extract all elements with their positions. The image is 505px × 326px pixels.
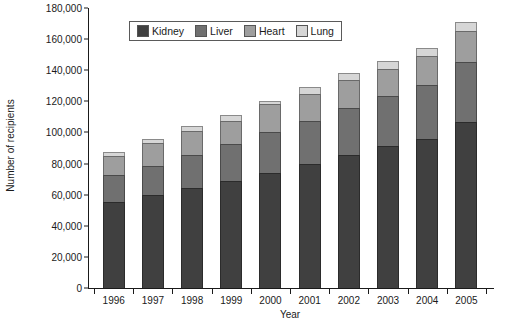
legend-item-kidney[interactable]: Kidney [137,25,184,37]
chart-legend: KidneyLiverHeartLung [129,21,342,41]
x-tick-mark [290,289,291,294]
legend-swatch-lung [296,25,308,37]
y-tick-label: 80,000 [51,158,88,169]
bar-segment-liver[interactable] [103,175,125,202]
legend-swatch-kidney [137,25,149,37]
y-tick-label: 180,000 [46,3,88,14]
x-axis-title: Year [88,309,492,320]
x-tick-mark [408,289,409,294]
y-tick-label: 100,000 [46,127,88,138]
legend-label: Liver [210,25,233,37]
bar-column[interactable] [455,8,477,288]
bar-segment-heart[interactable] [142,143,164,166]
bar-column[interactable] [299,8,321,288]
bar-segment-heart[interactable] [455,31,477,61]
x-tick-label: 1998 [181,295,203,306]
bar-segment-kidney[interactable] [455,122,477,288]
stacked-bar-chart: Number of recipients 020,00040,00060,000… [0,0,505,326]
bar-segment-kidney[interactable] [181,188,203,288]
bar-segment-lung[interactable] [416,48,438,57]
x-tick-label: 2004 [416,295,438,306]
bar-segment-lung[interactable] [455,22,477,31]
x-tick-mark [212,289,213,294]
bar-segment-kidney[interactable] [416,139,438,288]
bar-column[interactable] [338,8,360,288]
y-axis-title-text: Number of recipients [5,99,16,191]
bar-segment-liver[interactable] [377,96,399,147]
x-tick-label: 2002 [338,295,360,306]
legend-label: Heart [259,25,285,37]
bar-segment-kidney[interactable] [142,195,164,288]
bar-column[interactable] [181,8,203,288]
y-tick-label: 160,000 [46,34,88,45]
bar-column[interactable] [220,8,242,288]
x-tick-mark [447,289,448,294]
bar-segment-heart[interactable] [220,121,242,144]
y-tick-label: 40,000 [51,220,88,231]
legend-item-lung[interactable]: Lung [296,25,334,37]
x-tick-mark [486,289,487,294]
x-tick-label: 2000 [259,295,281,306]
bar-segment-kidney[interactable] [338,155,360,288]
legend-item-heart[interactable]: Heart [244,25,285,37]
x-tick-label: 1996 [103,295,125,306]
bar-segment-heart[interactable] [181,131,203,155]
y-axis-title: Number of recipients [2,0,18,290]
bar-segment-kidney[interactable] [377,146,399,288]
legend-swatch-heart [244,25,256,37]
bar-segment-heart[interactable] [377,69,399,95]
x-tick-mark [368,289,369,294]
x-tick-label: 2005 [455,295,477,306]
legend-label: Kidney [152,25,184,37]
bar-segment-heart[interactable] [416,56,438,85]
bar-segment-kidney[interactable] [220,181,242,288]
x-axis-labels: 1996199719981999200020012002200320042005 [88,295,492,306]
x-tick-mark [329,289,330,294]
x-tick-label: 1999 [220,295,242,306]
bar-segment-heart[interactable] [338,80,360,108]
bar-group [88,8,492,288]
plot-area [88,8,492,288]
x-tick-mark [94,289,95,294]
bar-column[interactable] [142,8,164,288]
bar-segment-liver[interactable] [220,144,242,181]
bar-column[interactable] [377,8,399,288]
y-tick-label: 60,000 [51,189,88,200]
bar-column[interactable] [103,8,125,288]
bar-segment-kidney[interactable] [299,164,321,288]
x-tick-label: 2003 [377,295,399,306]
legend-label: Lung [311,25,334,37]
bar-segment-heart[interactable] [103,156,125,175]
bar-segment-liver[interactable] [299,121,321,164]
bar-segment-kidney[interactable] [259,173,281,288]
legend-item-liver[interactable]: Liver [195,25,233,37]
x-tick-label: 1997 [142,295,164,306]
bar-segment-lung[interactable] [338,73,360,80]
y-tick-label: 140,000 [46,65,88,76]
x-tick-label: 2001 [299,295,321,306]
x-tick-mark [172,289,173,294]
bar-segment-heart[interactable] [299,94,321,121]
bar-segment-liver[interactable] [181,155,203,188]
bar-segment-liver[interactable] [259,132,281,173]
y-tick-label: 20,000 [51,251,88,262]
bar-segment-liver[interactable] [142,166,164,195]
y-tick-label: 120,000 [46,96,88,107]
x-tick-mark [251,289,252,294]
bar-column[interactable] [416,8,438,288]
bar-column[interactable] [259,8,281,288]
bar-segment-liver[interactable] [455,62,477,123]
bar-segment-heart[interactable] [259,104,281,131]
legend-swatch-liver [195,25,207,37]
bar-segment-liver[interactable] [338,108,360,155]
bar-segment-kidney[interactable] [103,202,125,288]
bar-segment-lung[interactable] [377,61,399,70]
x-tick-mark [133,289,134,294]
bar-segment-liver[interactable] [416,85,438,139]
